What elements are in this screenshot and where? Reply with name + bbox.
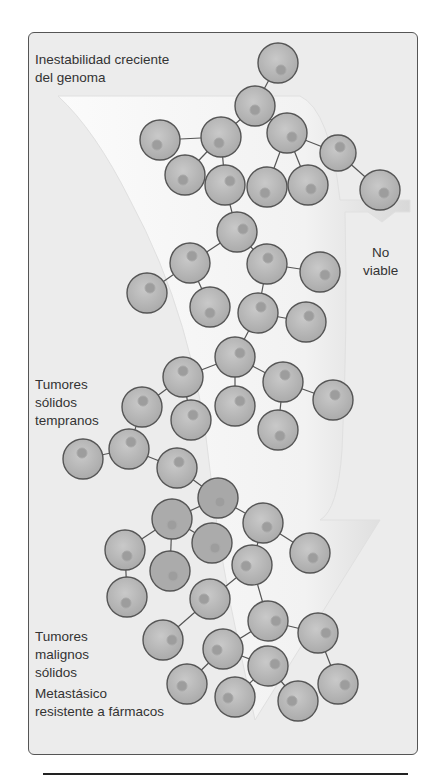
label-not-viable: No viable [363,244,398,280]
label-metastatic-drug-resistant: Metastásico resistente a fármacos [35,685,164,721]
label-genome-instability: Inestabilidad creciente del genoma [35,51,169,87]
label-malignant-solid-tumors: Tumores malignos sólidos [35,628,89,682]
divider-rule [43,773,408,775]
label-early-solid-tumors: Tumores sólidos tempranos [35,376,99,430]
